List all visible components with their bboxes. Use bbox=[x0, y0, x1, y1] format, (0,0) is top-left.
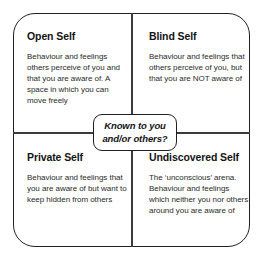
quadrant-private-self-content: Private Self Behaviour and feelings that… bbox=[27, 151, 131, 205]
center-question-line-2: and/or others? bbox=[102, 133, 167, 144]
quadrant-blind-self-title: Blind Self bbox=[149, 30, 250, 42]
center-question-line-1: Known to you bbox=[104, 120, 166, 131]
quadrant-private-self-body: Behaviour and feelings that you are awar… bbox=[27, 172, 131, 205]
center-question-callout: Known to you and/or others? bbox=[93, 114, 177, 151]
quadrant-open-self-title: Open Self bbox=[27, 30, 127, 42]
quadrant-blind-self-content: Blind Self Behaviour and feelings that o… bbox=[149, 30, 250, 84]
quadrant-open-self-content: Open Self Behaviour and feelings others … bbox=[27, 30, 127, 106]
quadrant-undiscovered-self-title: Undiscovered Self bbox=[149, 151, 250, 163]
quadrant-undiscovered-self-body: The ‘unconscious’ arena. Behaviour and f… bbox=[149, 172, 250, 216]
center-question-label: Known to you and/or others? bbox=[102, 120, 167, 145]
quadrant-undiscovered-self-content: Undiscovered Self The ‘unconscious’ aren… bbox=[149, 151, 250, 216]
quadrant-private-self-title: Private Self bbox=[27, 151, 131, 163]
quadrant-blind-self-body: Behaviour and feelings that others perce… bbox=[149, 51, 250, 84]
johari-window-diagram: Open Self Behaviour and feelings others … bbox=[13, 13, 250, 247]
quadrant-open-self-body: Behaviour and feelings others perceive o… bbox=[27, 51, 127, 106]
